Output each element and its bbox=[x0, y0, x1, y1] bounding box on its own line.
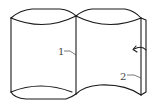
left-cylinder-bottom-front bbox=[11, 92, 76, 99]
right-lobe-bottom bbox=[76, 85, 141, 95]
left-cylinder-top-front bbox=[11, 16, 76, 25]
right-lobe-top-front bbox=[76, 16, 141, 25]
label-1: 1 bbox=[58, 46, 64, 57]
left-cylinder-top-back bbox=[11, 9, 76, 18]
left-cylinder-bottom-back bbox=[11, 86, 72, 92]
label-2: 2 bbox=[120, 71, 126, 82]
diagram-canvas: 1 2 bbox=[0, 0, 158, 110]
fold-arrow-icon bbox=[133, 46, 146, 52]
right-edge-strip bbox=[141, 18, 146, 95]
right-lobe-top-back bbox=[76, 9, 141, 18]
leader-line-1 bbox=[64, 51, 76, 55]
leader-line-2 bbox=[127, 75, 141, 78]
